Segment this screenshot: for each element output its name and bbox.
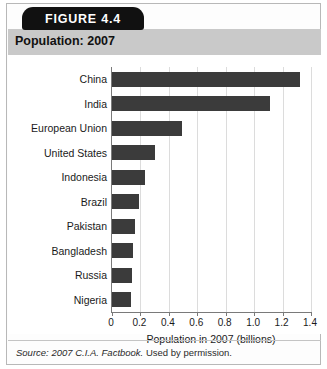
bar-row: Indonesia [112, 165, 145, 190]
bar [112, 170, 145, 185]
x-axis-tick-label: 0.4 [161, 317, 175, 328]
bar [112, 121, 182, 136]
x-axis-tick-label: 0.2 [132, 317, 146, 328]
x-axis-tick-label: 1.4 [303, 317, 317, 328]
bar-category-label: Brazil [81, 190, 107, 215]
bar [112, 194, 139, 209]
bar-row: Bangladesh [112, 239, 133, 264]
bar-category-label: Russia [75, 263, 107, 288]
figure-number-tab: FIGURE 4.4 [22, 7, 144, 30]
x-axis-tick [311, 312, 312, 316]
source-citation: Source: 2007 C.I.A. Factbook. [16, 347, 143, 358]
bar-row: China [112, 67, 300, 92]
bar-category-label: Bangladesh [52, 239, 107, 264]
x-axis-tick-label: 0 [108, 317, 114, 328]
bar-category-label: European Union [31, 116, 107, 141]
x-axis-line [111, 312, 311, 313]
bar-row: United States [112, 141, 155, 166]
bar-category-label: Indonesia [61, 165, 107, 190]
bar-category-label: India [84, 92, 107, 117]
bar-row: India [112, 92, 270, 117]
gridline [311, 67, 312, 312]
plot-box: ChinaIndiaEuropean UnionUnited StatesInd… [111, 67, 312, 312]
source-divider [8, 340, 321, 341]
bar-row: Russia [112, 263, 132, 288]
gridline [283, 67, 284, 312]
bar-category-label: Pakistan [67, 214, 107, 239]
bar [112, 219, 135, 234]
source-permission: Used by permission. [143, 347, 232, 358]
source-caption: Source: 2007 C.I.A. Factbook. Used by pe… [16, 347, 232, 358]
bar [112, 96, 270, 111]
figure-title: Population: 2007 [15, 34, 115, 48]
x-axis-tick-label: 1.0 [246, 317, 260, 328]
bar [112, 268, 132, 283]
bar-category-label: Nigeria [74, 288, 107, 313]
x-axis-tick-label: 0.6 [189, 317, 203, 328]
bar-row: Pakistan [112, 214, 135, 239]
x-axis-tick-label: 0.8 [218, 317, 232, 328]
bar [112, 243, 133, 258]
x-axis-tick-label: 1.2 [275, 317, 289, 328]
bar-category-label: China [80, 67, 107, 92]
bar-row: Nigeria [112, 288, 131, 313]
figure-card: FIGURE 4.4 Population: 2007 ChinaIndiaEu… [6, 3, 321, 365]
bar [112, 145, 155, 160]
bar-category-label: United States [44, 141, 107, 166]
bar-row: European Union [112, 116, 182, 141]
bar-row: Brazil [112, 190, 139, 215]
bar [112, 72, 300, 87]
figure-number-label: FIGURE 4.4 [45, 12, 121, 26]
bar [112, 292, 131, 307]
x-axis-title: Population in 2007 (billions) [111, 333, 311, 345]
chart-plot-area: ChinaIndiaEuropean UnionUnited StatesInd… [8, 55, 321, 334]
